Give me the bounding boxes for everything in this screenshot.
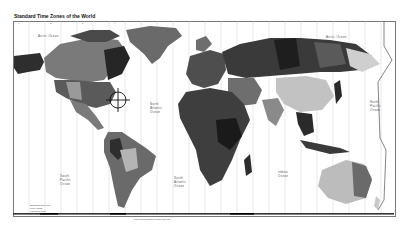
top-tick: 3 xyxy=(82,22,83,25)
ocean-label: South Atlantic Ocean xyxy=(174,176,194,188)
top-tick: 1 xyxy=(18,22,19,25)
date-line xyxy=(378,21,392,210)
ocean-label: Arctic Ocean xyxy=(38,34,59,38)
ocean-label: South Pacific Ocean xyxy=(60,174,78,186)
ocean-label: North Atlantic Ocean xyxy=(150,102,170,114)
top-tick: 4 xyxy=(114,22,115,25)
ocean-label: North Pacific Ocean xyxy=(370,100,388,112)
legend-line: Half-hour zone xyxy=(30,210,46,213)
world-map xyxy=(0,0,420,243)
bottom-zone-bar xyxy=(13,213,394,215)
ocean-label: Arctic Ocean xyxy=(326,35,347,39)
ocean-label: Indian Ocean xyxy=(278,170,294,178)
top-tick: 2 xyxy=(50,22,51,25)
legend-note: Time zones shown relative to UTC xyxy=(134,218,170,221)
